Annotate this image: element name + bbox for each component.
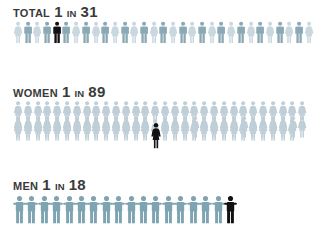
woman-icon bbox=[268, 118, 278, 142]
man-icon bbox=[81, 21, 91, 44]
man-icon bbox=[25, 195, 38, 224]
woman-icon bbox=[91, 118, 101, 142]
woman-icon bbox=[226, 21, 236, 44]
man-icon bbox=[158, 21, 168, 44]
stat-connector-men: IN bbox=[55, 182, 65, 192]
man-icon bbox=[255, 21, 265, 44]
stat-denominator-total: 31 bbox=[81, 4, 98, 19]
man-icon bbox=[139, 21, 149, 44]
man-icon bbox=[50, 195, 63, 224]
woman-icon bbox=[52, 118, 62, 142]
man-icon bbox=[23, 21, 33, 44]
woman-icon bbox=[33, 118, 43, 142]
stat-numerator-women: 1 bbox=[62, 84, 71, 99]
woman-icon bbox=[42, 118, 52, 142]
man-icon bbox=[216, 21, 226, 44]
man-icon bbox=[38, 195, 51, 224]
man-icon bbox=[112, 195, 125, 224]
stat-category-men: MEN bbox=[13, 181, 38, 192]
woman-icon bbox=[209, 118, 219, 142]
woman-icon bbox=[13, 118, 23, 142]
man-icon bbox=[187, 195, 200, 224]
stat-denominator-men: 18 bbox=[69, 177, 86, 192]
woman-icon bbox=[304, 21, 314, 44]
woman-icon bbox=[71, 21, 81, 44]
woman-icon bbox=[149, 21, 159, 44]
man-icon bbox=[13, 195, 26, 224]
woman-icon bbox=[62, 118, 72, 142]
man-icon bbox=[236, 21, 246, 44]
man-icon bbox=[75, 195, 88, 224]
woman-icon bbox=[229, 118, 239, 142]
man-icon bbox=[212, 195, 225, 224]
man-icon bbox=[137, 195, 150, 224]
person-icon-highlighted bbox=[52, 21, 62, 44]
woman-icon bbox=[91, 21, 101, 44]
stat-numerator-total: 1 bbox=[54, 4, 63, 19]
man-icon bbox=[120, 21, 130, 44]
woman-icon bbox=[199, 118, 209, 142]
woman-icon bbox=[110, 21, 120, 44]
man-icon bbox=[61, 21, 71, 44]
woman-icon bbox=[278, 118, 288, 142]
stat-block-women: WOMEN 1 IN 89 bbox=[0, 84, 333, 172]
woman-icon bbox=[23, 118, 33, 142]
woman-icon bbox=[82, 118, 92, 142]
stat-category-total: TOTAL bbox=[13, 8, 50, 19]
figure-row-women bbox=[0, 100, 333, 172]
woman-icon bbox=[111, 118, 121, 142]
woman-icon bbox=[207, 21, 217, 44]
woman-icon bbox=[287, 118, 297, 142]
man-icon bbox=[294, 21, 304, 44]
woman-icon bbox=[180, 118, 190, 142]
man-icon bbox=[162, 195, 175, 224]
stat-category-women: WOMEN bbox=[13, 88, 58, 99]
woman-icon bbox=[238, 118, 248, 142]
woman-icon bbox=[72, 118, 82, 142]
man-icon bbox=[87, 195, 100, 224]
man-icon bbox=[197, 21, 207, 44]
woman-icon bbox=[129, 21, 139, 44]
woman-icon bbox=[187, 21, 197, 44]
man-icon bbox=[100, 21, 110, 44]
woman-icon bbox=[13, 21, 23, 44]
man-icon bbox=[174, 195, 187, 224]
stat-label-women: WOMEN 1 IN 89 bbox=[0, 84, 333, 99]
pictogram-infographic: TOTAL 1 IN 31 bbox=[0, 0, 333, 248]
stat-connector-women: IN bbox=[74, 89, 84, 99]
woman-icon bbox=[297, 115, 307, 139]
stat-numerator-men: 1 bbox=[42, 177, 51, 192]
stat-connector-total: IN bbox=[67, 9, 77, 19]
stat-label-men: MEN 1 IN 18 bbox=[0, 177, 333, 192]
woman-icon bbox=[170, 118, 180, 142]
woman-icon bbox=[284, 21, 294, 44]
woman-icon bbox=[101, 118, 111, 142]
woman-icon-highlighted bbox=[150, 121, 162, 150]
woman-icon bbox=[258, 118, 268, 142]
man-icon bbox=[125, 195, 138, 224]
woman-icon bbox=[189, 118, 199, 142]
stat-block-men: MEN 1 IN 18 bbox=[0, 177, 333, 224]
man-icon bbox=[178, 21, 188, 44]
stat-denominator-women: 89 bbox=[88, 84, 105, 99]
man-icon bbox=[149, 195, 162, 224]
man-icon bbox=[42, 21, 52, 44]
woman-icon bbox=[219, 118, 229, 142]
woman-icon bbox=[248, 118, 258, 142]
man-icon bbox=[100, 195, 113, 224]
man-icon bbox=[275, 21, 285, 44]
woman-icon bbox=[32, 21, 42, 44]
man-icon bbox=[199, 195, 212, 224]
woman-icon bbox=[168, 21, 178, 44]
woman-icon bbox=[121, 118, 131, 142]
figure-row-total bbox=[0, 21, 333, 44]
stat-block-total: TOTAL 1 IN 31 bbox=[0, 4, 333, 44]
woman-icon bbox=[265, 21, 275, 44]
figure-row-men bbox=[0, 195, 333, 224]
man-icon bbox=[63, 195, 76, 224]
man-icon-highlighted bbox=[224, 195, 237, 224]
woman-icon bbox=[246, 21, 256, 44]
woman-icon bbox=[131, 118, 141, 142]
stat-label-total: TOTAL 1 IN 31 bbox=[0, 4, 333, 19]
